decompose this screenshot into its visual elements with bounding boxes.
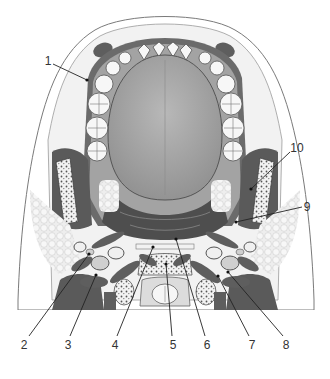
label-4: 4	[112, 339, 119, 351]
label-5: 5	[170, 339, 177, 351]
label-1: 1	[45, 55, 52, 67]
label-9: 9	[304, 201, 311, 213]
label-2: 2	[21, 339, 28, 351]
label-6: 6	[204, 339, 211, 351]
anatomy-diagram: 1 2 3 4 5 6 7 8 9 10	[0, 0, 330, 379]
gland-left	[99, 180, 119, 212]
label-7: 7	[249, 339, 256, 351]
label-3: 3	[65, 339, 72, 351]
gland-right	[211, 180, 231, 212]
label-8: 8	[283, 339, 290, 351]
label-10: 10	[290, 142, 303, 154]
